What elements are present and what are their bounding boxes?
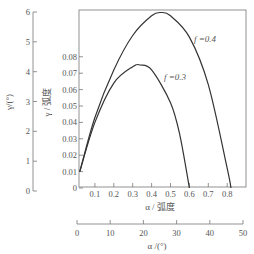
x-tick-label: 0.6 [184, 189, 195, 199]
y-tick-label: 0.03 [62, 134, 77, 144]
series-label-f03: f =0.3 [164, 72, 187, 82]
y-tick-label: 0.07 [62, 68, 77, 78]
x-tick-label: 0.1 [90, 189, 101, 199]
y-tick-label: 0.01 [62, 167, 77, 177]
secondary-x-tick-label: 40 [206, 228, 215, 238]
secondary-y-tick-label: 0 [26, 186, 30, 196]
secondary-y-tick-label: 1 [26, 156, 30, 166]
secondary-y-label: γ/(°) [4, 94, 14, 111]
series-line-f=0.3 [80, 64, 190, 188]
secondary-y-tick-label: 2 [26, 126, 30, 136]
y-tick-label: 0.08 [62, 52, 77, 62]
secondary-x-tick-label: 50 [239, 228, 248, 238]
x-tick-label: 0.3 [127, 189, 138, 199]
x-tick-label: 0.8 [222, 189, 233, 199]
x-tick-label: 0.5 [165, 189, 176, 199]
x-axis-label: α / 弧度 [145, 201, 175, 212]
y-tick-label: 0 [73, 183, 77, 193]
plot-frame [79, 10, 246, 187]
x-tick-label: 0.4 [146, 189, 157, 199]
secondary-x-tick-label: 20 [139, 228, 148, 238]
x-tick-label: 0.2 [108, 189, 119, 199]
secondary-x-tick-label: 10 [106, 228, 115, 238]
secondary-y-tick-label: 6 [26, 7, 30, 17]
secondary-x-tick-label: 0 [75, 228, 79, 238]
secondary-y-tick-label: 5 [26, 37, 30, 47]
y-axis-label: γ / 弧度 [41, 88, 52, 118]
secondary-y-tick-label: 3 [26, 97, 30, 107]
y-tick-label: 0.02 [62, 150, 77, 160]
y-tick-label: 0.05 [62, 101, 77, 111]
y-tick-label: 0.06 [62, 85, 77, 95]
secondary-x-tick-label: 30 [172, 228, 181, 238]
series-label-f04: f =0.4 [194, 34, 217, 44]
chart: 0123456 γ/(°) 00.010.020.030.040.050.060… [0, 0, 254, 254]
x-tick-label: 0.7 [203, 189, 214, 199]
y-tick-label: 0.04 [62, 117, 78, 127]
secondary-y-tick-label: 4 [26, 67, 31, 77]
secondary-x-label: α /(°) [147, 241, 166, 251]
secondary-y-axis [33, 12, 37, 191]
